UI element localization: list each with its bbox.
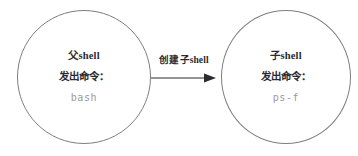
edge-create-child-shell: 创建子shell — [150, 56, 218, 86]
parent-shell-command: bash — [71, 93, 97, 103]
edge-label-create-child-shell: 创建子shell — [150, 56, 218, 66]
child-shell-caption: 发出命令： — [261, 72, 312, 83]
node-parent-shell: 父shell 发出命令： bash — [17, 10, 151, 144]
arrow-right-icon — [150, 72, 218, 84]
child-shell-command: ps-f — [273, 93, 299, 103]
child-shell-title: 子shell — [270, 51, 302, 62]
diagram-canvas: 父shell 发出命令： bash 创建子shell 子shell 发出命令： … — [0, 0, 358, 156]
node-child-shell: 子shell 发出命令： ps-f — [221, 10, 351, 144]
parent-shell-caption: 发出命令： — [59, 72, 110, 83]
parent-shell-title: 父shell — [68, 51, 100, 62]
